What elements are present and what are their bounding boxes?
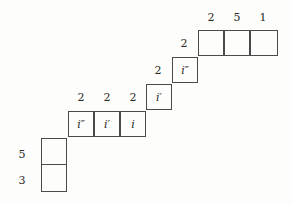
middle-row-cell-3: i bbox=[120, 111, 146, 137]
middle-row-label-2: 2 bbox=[97, 92, 117, 104]
left-column-label-2: 3 bbox=[12, 175, 32, 187]
top-row-cell-1 bbox=[198, 30, 224, 56]
step-label-lower: 2 bbox=[148, 65, 168, 77]
left-column-label-1: 5 bbox=[12, 149, 32, 161]
middle-row-cell-2: i′ bbox=[94, 111, 120, 137]
top-row-cell-2 bbox=[224, 30, 250, 56]
top-row-label-3: 1 bbox=[253, 12, 273, 24]
top-row-label-1: 2 bbox=[201, 12, 221, 24]
top-row-label-2: 5 bbox=[227, 12, 247, 24]
step-label-upper: 2 bbox=[174, 38, 194, 50]
middle-row-label-3: 2 bbox=[123, 92, 143, 104]
step-cell-upper: i″ bbox=[172, 57, 198, 83]
step-cell-lower: i′ bbox=[146, 84, 172, 110]
middle-row-label-1: 2 bbox=[71, 92, 91, 104]
middle-row-cell-1: i″ bbox=[68, 111, 94, 137]
left-column-cell-2 bbox=[41, 164, 67, 192]
top-row-cell-3 bbox=[250, 30, 278, 56]
left-column-cell-1 bbox=[41, 138, 67, 165]
